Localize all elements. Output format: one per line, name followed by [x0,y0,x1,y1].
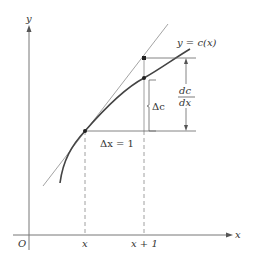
arrow-up-icon [184,58,188,64]
x-tick-label: x [82,238,88,249]
derivative-denominator: dx [179,97,191,108]
delta-c-label: Δc [152,101,165,112]
arrow-down-icon [184,125,188,131]
curve-label: y = c(x) [176,37,217,48]
y-axis-label: y [25,13,32,24]
delta-x-label: Δx = 1 [100,138,134,149]
y-axis-arrow-icon [27,25,32,32]
x-axis-arrow-icon [226,233,233,238]
x-axis-label: x [235,229,241,240]
tangent-point [83,129,87,133]
derivative-numerator: dc [179,85,191,96]
cost-curve [60,49,190,183]
tangent-point-x-plus-1 [142,56,146,60]
x-plus-1-tick-label: x + 1 [131,238,158,249]
diagram-canvas: y x O x x + 1 y = c(x) Δx = 1 Δc dc dx [0,0,253,261]
curve-point-x-plus-1 [142,76,146,80]
origin-label: O [18,238,26,249]
